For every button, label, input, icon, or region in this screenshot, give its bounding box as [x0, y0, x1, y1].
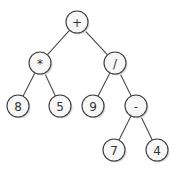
node-label: 4 [153, 144, 161, 158]
tree-node: * [29, 52, 53, 76]
node-label: 9 [89, 100, 97, 114]
tree-node: 8 [7, 95, 31, 119]
tree-edges [23, 30, 152, 140]
tree-node: 9 [82, 95, 106, 119]
node-label: * [37, 57, 43, 71]
tree-edge [84, 30, 107, 55]
tree-edge [45, 73, 56, 96]
expression-tree-diagram: +*/859-74 [0, 0, 180, 172]
node-label: 8 [14, 100, 22, 114]
node-label: - [134, 100, 138, 114]
tree-edge [47, 30, 69, 55]
tree-node: 4 [146, 139, 170, 163]
tree-node: 5 [49, 95, 73, 119]
tree-edge [141, 116, 153, 140]
tree-edge [98, 73, 110, 96]
tree-node: 7 [103, 139, 127, 163]
node-label: 7 [110, 144, 118, 158]
tree-node: - [125, 95, 149, 119]
tree-edge [120, 73, 131, 96]
node-label: 5 [56, 100, 64, 114]
tree-edge [119, 116, 131, 140]
node-label: + [72, 16, 82, 30]
tree-edge [23, 73, 35, 96]
tree-node: / [104, 52, 128, 76]
